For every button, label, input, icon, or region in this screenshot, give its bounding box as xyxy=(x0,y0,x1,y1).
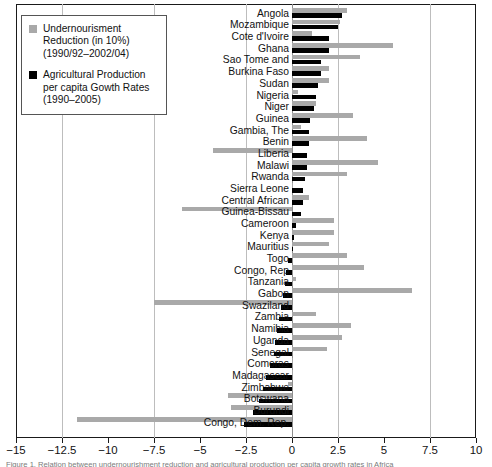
legend-item: Agricultural Production per capita Gowth… xyxy=(29,69,159,106)
bar-agricultural-production xyxy=(292,83,318,88)
category-label: Comoras xyxy=(0,358,289,369)
bar-agricultural-production xyxy=(292,223,296,228)
bar-undernourishment xyxy=(292,312,316,317)
category-label: Guinea-Bissau xyxy=(0,206,289,217)
category-label: Benin xyxy=(0,136,289,147)
bar-undernourishment xyxy=(292,253,347,258)
bar-undernourishment xyxy=(292,347,327,352)
category-label: Cameroon xyxy=(0,218,289,229)
x-axis-tick-label: −5 xyxy=(194,444,207,456)
legend-label-undernourishment: Undernourisment Reduction (in 10%) (1990… xyxy=(43,23,159,60)
category-label: Swaziland xyxy=(0,300,289,311)
bar-agricultural-production xyxy=(292,106,314,111)
bar-undernourishment xyxy=(292,195,309,200)
bar-agricultural-production xyxy=(292,177,305,182)
bar-undernourishment xyxy=(292,8,347,13)
bar-agricultural-production xyxy=(292,13,342,18)
bar-undernourishment xyxy=(292,323,351,328)
x-axis-tick xyxy=(338,438,339,443)
bar-undernourishment xyxy=(292,288,412,293)
x-axis-tick-label: −10 xyxy=(98,444,117,456)
chart-screenshot: AngolaMozambiqueCote d'IvoireGhanaSao To… xyxy=(0,0,492,467)
bar-undernourishment xyxy=(292,183,293,188)
bar-agricultural-production xyxy=(292,247,293,252)
category-label: Senegal xyxy=(0,347,289,358)
bar-undernourishment xyxy=(292,90,298,95)
x-axis-tick xyxy=(154,438,155,443)
x-axis-tick-label: −2.5 xyxy=(235,444,258,456)
x-axis-tick xyxy=(292,438,293,443)
category-label: Gabon xyxy=(0,288,289,299)
x-axis-tick xyxy=(200,438,201,443)
bar-agricultural-production xyxy=(292,71,321,76)
category-label: Central African xyxy=(0,195,289,206)
legend-label-agriculture: Agricultural Production per capita Gowth… xyxy=(43,69,159,106)
bar-undernourishment xyxy=(292,265,364,270)
legend-item: Undernourisment Reduction (in 10%) (1990… xyxy=(29,23,159,60)
bar-undernourishment xyxy=(292,66,329,71)
x-axis-tick xyxy=(384,438,385,443)
x-axis-tick-label: 5 xyxy=(381,444,387,456)
x-axis-tick xyxy=(476,438,477,443)
legend-swatch-undernourishment xyxy=(29,25,37,33)
bar-agricultural-production xyxy=(292,130,309,135)
bar-undernourishment xyxy=(292,172,347,177)
bar-agricultural-production xyxy=(292,235,294,240)
bar-agricultural-production xyxy=(292,153,307,158)
category-label: Namibia xyxy=(0,323,289,334)
category-label: Rwanda xyxy=(0,171,289,182)
x-axis-tick xyxy=(108,438,109,443)
bar-undernourishment xyxy=(292,277,296,282)
category-label: Liberia xyxy=(0,148,289,159)
bar-undernourishment xyxy=(292,218,334,223)
x-axis-tick-label: 2.5 xyxy=(330,444,346,456)
legend-swatch-agriculture xyxy=(29,71,37,79)
bar-undernourishment xyxy=(292,335,342,340)
x-axis-tick xyxy=(246,438,247,443)
bar-agricultural-production xyxy=(292,48,329,53)
bar-undernourishment xyxy=(292,136,367,141)
category-label: Kenya xyxy=(0,230,289,241)
bar-undernourishment xyxy=(292,242,329,247)
bar-undernourishment xyxy=(292,113,353,118)
bar-undernourishment xyxy=(292,31,312,36)
category-label: Mauritius xyxy=(0,241,289,252)
x-axis-tick-label: −12.5 xyxy=(48,444,77,456)
bar-agricultural-production xyxy=(292,60,321,65)
category-label: Sierra Leone xyxy=(0,183,289,194)
x-axis-tick-label: −15 xyxy=(6,444,25,456)
bar-undernourishment xyxy=(292,43,393,48)
bar-undernourishment xyxy=(292,55,360,60)
bar-undernourishment xyxy=(292,20,340,25)
bar-undernourishment xyxy=(292,125,301,130)
x-axis-tick xyxy=(16,438,17,443)
bar-agricultural-production xyxy=(292,25,338,30)
x-axis-tick-label: 0 xyxy=(289,444,295,456)
category-label: Botswana xyxy=(0,393,289,404)
x-axis-tick xyxy=(430,438,431,443)
category-label: Zimbabwe xyxy=(0,382,289,393)
category-label: Tanzania xyxy=(0,276,289,287)
category-label: Congo, Dem. Rep. xyxy=(0,417,289,428)
bar-agricultural-production xyxy=(292,212,301,217)
bar-agricultural-production xyxy=(292,141,309,146)
x-axis-tick-label: 7.5 xyxy=(422,444,438,456)
category-label: Madagascar xyxy=(0,370,289,381)
x-axis-tick xyxy=(62,438,63,443)
category-label: Congo, Rep xyxy=(0,265,289,276)
bar-agricultural-production xyxy=(292,200,303,205)
x-axis-tick-label: −7.5 xyxy=(143,444,166,456)
bar-undernourishment xyxy=(292,230,334,235)
bar-agricultural-production xyxy=(292,95,316,100)
category-label: Uganda xyxy=(0,335,289,346)
bar-undernourishment xyxy=(292,78,329,83)
x-axis-tick-label: 10 xyxy=(470,444,483,456)
bar-undernourishment xyxy=(292,160,378,165)
category-label: Gambia, The xyxy=(0,125,289,136)
category-label: Burundi xyxy=(0,405,289,416)
bar-undernourishment xyxy=(292,358,293,363)
chart-legend: Undernourisment Reduction (in 10%) (1990… xyxy=(21,15,167,115)
bar-undernourishment xyxy=(292,370,293,375)
bar-undernourishment xyxy=(292,101,316,106)
category-label: Malawi xyxy=(0,160,289,171)
